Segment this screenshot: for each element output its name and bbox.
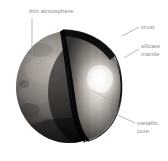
metallic-core [77,57,125,107]
label-silicate-mantle-line1: silicate [141,43,160,51]
label-metallic-core: metallic core [137,120,158,135]
leader-silicate-mantle [124,49,139,58]
label-crust: crust [141,24,155,32]
label-silicate-mantle-line2: mantle [141,51,160,59]
leader-crust [122,27,139,36]
label-silicate-mantle: silicate mantle [141,43,160,58]
label-metallic-core-line1: metallic [137,120,158,128]
label-thin-atmosphere: thin atmosphere [29,8,74,16]
planet-cutaway-figure: thin atmosphere crust silicate mantle me… [0,0,168,161]
label-metallic-core-line2: core [137,128,158,136]
leader-metallic-core [118,115,135,123]
